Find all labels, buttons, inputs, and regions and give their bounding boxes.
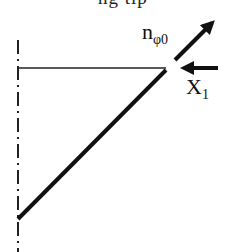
normal-vector-label: nφ0 [142, 19, 168, 48]
normal-vector-arrow [175, 23, 212, 60]
conical-shell-line [18, 70, 166, 219]
force-x1-label: X1 [186, 74, 209, 103]
diagram-canvas [0, 0, 234, 252]
